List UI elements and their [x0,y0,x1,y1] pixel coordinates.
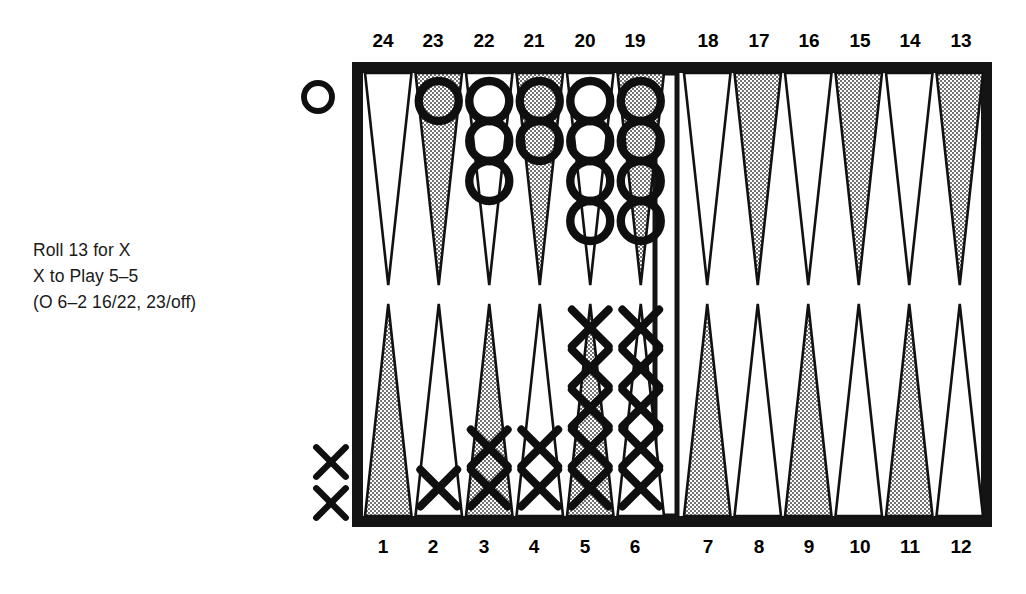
point-number-18: 18 [681,30,735,52]
point-number-10: 10 [833,536,887,558]
caption-line-play: X to Play 5–5 [33,263,323,289]
point-number-19: 19 [608,30,662,52]
point-number-23: 23 [406,30,460,52]
point-number-5: 5 [558,536,612,558]
point-number-11: 11 [883,536,937,558]
caption-line-opp: (O 6–2 16/22, 23/off) [33,289,323,315]
point-number-9: 9 [782,536,836,558]
point-number-4: 4 [507,536,561,558]
off-marker-x [316,488,345,517]
backgammon-diagram: 24 23 22 21 20 19 18 17 16 15 14 13 1 2 … [0,0,1026,594]
point-number-2: 2 [406,536,460,558]
caption-line-roll: Roll 13 for X [33,237,323,263]
off-marker-o [304,83,332,111]
point-number-21: 21 [507,30,561,52]
o-checker-ring [304,83,332,111]
point-number-1: 1 [356,536,410,558]
off-marker-x [316,447,345,476]
point-number-16: 16 [782,30,836,52]
point-number-15: 15 [833,30,887,52]
point-number-22: 22 [457,30,511,52]
move-caption: Roll 13 for X X to Play 5–5 (O 6–2 16/22… [33,237,323,315]
point-number-13: 13 [934,30,988,52]
point-number-24: 24 [356,30,410,52]
point-number-3: 3 [457,536,511,558]
point-number-7: 7 [681,536,735,558]
point-number-20: 20 [558,30,612,52]
point-number-8: 8 [732,536,786,558]
point-number-12: 12 [934,536,988,558]
point-number-17: 17 [732,30,786,52]
point-number-14: 14 [883,30,937,52]
point-number-6: 6 [608,536,662,558]
